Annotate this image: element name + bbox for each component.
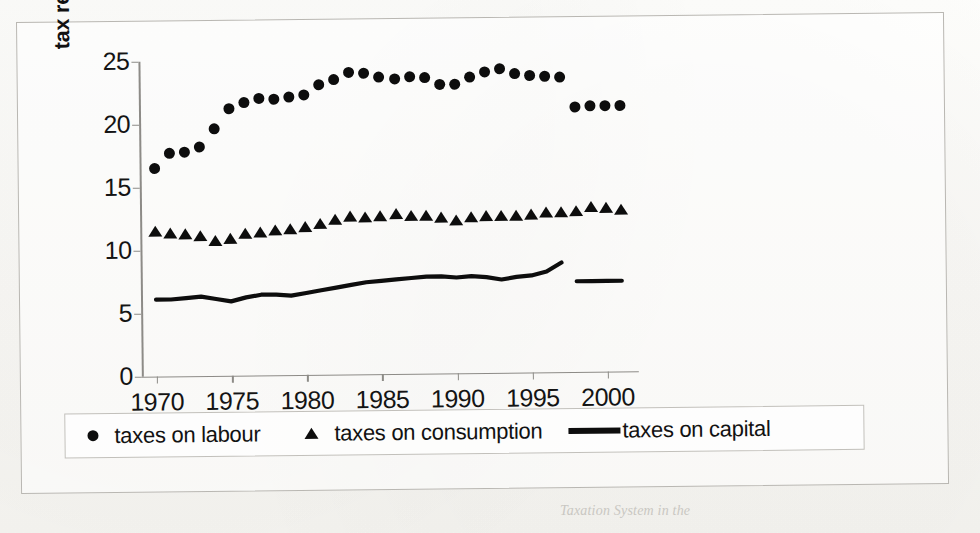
labour-data-point xyxy=(584,100,595,111)
consumption-data-point xyxy=(479,210,493,221)
consumption-data-point xyxy=(253,226,267,237)
capital-line-segment xyxy=(156,262,562,302)
labour-data-point xyxy=(614,100,625,111)
labour-data-point xyxy=(254,93,265,104)
page-caption-fragment: Taxation System in the xyxy=(560,503,690,519)
labour-data-point xyxy=(299,90,310,101)
consumption-data-point xyxy=(509,209,523,220)
labour-data-point xyxy=(539,71,550,82)
consumption-data-point xyxy=(539,207,553,218)
consumption-data-point xyxy=(313,218,327,229)
consumption-data-point xyxy=(374,210,388,221)
labour-data-point xyxy=(194,141,205,152)
labour-data-point xyxy=(149,163,160,174)
consumption-data-point xyxy=(238,228,252,239)
y-tick-label: 5 xyxy=(119,299,133,328)
consumption-data-point xyxy=(419,209,433,220)
y-axis-title: tax revenues (% GDP) xyxy=(48,0,76,80)
y-tick xyxy=(133,251,140,252)
legend-label-labour: taxes on labour xyxy=(114,421,260,449)
chart-figure: tax revenues (% GDP) 0510152025 19701975… xyxy=(16,12,947,492)
consumption-data-point xyxy=(223,233,237,244)
labour-data-point xyxy=(389,74,400,85)
labour-data-point xyxy=(599,100,610,111)
labour-data-point xyxy=(464,71,475,82)
labour-data-point xyxy=(554,72,565,83)
legend-item-capital: taxes on capital xyxy=(568,415,770,443)
labour-data-point xyxy=(224,103,235,114)
legend-label-consumption: taxes on consumption xyxy=(334,418,542,446)
labour-data-point xyxy=(509,68,520,79)
labour-data-point xyxy=(358,68,369,79)
consumption-data-point xyxy=(193,231,207,242)
labour-data-point xyxy=(269,94,280,105)
labour-data-point xyxy=(179,146,190,157)
labour-data-point xyxy=(328,74,339,85)
labour-data-point xyxy=(284,91,295,102)
legend-label-capital: taxes on capital xyxy=(622,415,770,443)
consumption-data-point xyxy=(268,225,282,236)
dot-marker-icon xyxy=(87,430,98,441)
y-tick xyxy=(134,314,141,315)
triangle-marker-icon xyxy=(304,428,318,439)
consumption-data-point xyxy=(614,203,628,214)
labour-data-point xyxy=(434,79,445,90)
y-tick-label: 25 xyxy=(102,47,129,76)
line-marker-icon xyxy=(568,427,620,434)
y-tick-label: 10 xyxy=(105,236,132,265)
plot-area: 0510152025 1970197519801985199019952000 xyxy=(138,56,637,376)
labour-data-point xyxy=(419,72,430,83)
labour-data-point xyxy=(404,71,415,82)
y-tick xyxy=(131,62,138,63)
labour-data-point xyxy=(374,71,385,82)
consumption-data-point xyxy=(404,209,418,220)
y-tick xyxy=(132,125,139,126)
y-tick-label: 15 xyxy=(104,173,131,202)
consumption-data-point xyxy=(343,210,357,221)
labour-data-point xyxy=(343,66,354,77)
legend-item-labour: taxes on labour xyxy=(87,421,260,449)
consumption-data-point xyxy=(163,227,177,238)
consumption-data-point xyxy=(569,205,583,216)
labour-data-point xyxy=(209,123,220,134)
labour-data-point xyxy=(524,70,535,81)
consumption-data-point xyxy=(584,201,598,212)
y-tick-label: 20 xyxy=(103,110,130,139)
y-tick xyxy=(133,188,140,189)
consumption-data-point xyxy=(494,210,508,221)
chart-legend: taxes on labour taxes on consumption tax… xyxy=(64,405,864,459)
consumption-data-point xyxy=(599,202,613,213)
consumption-data-point xyxy=(283,223,297,234)
consumption-data-point xyxy=(148,226,162,237)
consumption-data-point xyxy=(178,228,192,239)
consumption-data-point xyxy=(208,235,222,246)
labour-data-point xyxy=(164,148,175,159)
consumption-data-point xyxy=(359,211,373,222)
consumption-data-point xyxy=(389,208,403,219)
consumption-data-point xyxy=(464,211,478,222)
labour-data-point xyxy=(569,102,580,113)
y-tick xyxy=(135,377,142,378)
labour-data-point xyxy=(494,64,505,75)
consumption-data-point xyxy=(434,212,448,223)
labour-data-point xyxy=(449,79,460,90)
consumption-data-point xyxy=(524,208,538,219)
consumption-data-point xyxy=(328,214,342,225)
legend-item-consumption: taxes on consumption xyxy=(304,418,542,447)
consumption-data-point xyxy=(298,221,312,232)
consumption-data-point xyxy=(449,214,463,225)
labour-data-point xyxy=(239,97,250,108)
labour-data-point xyxy=(313,79,324,90)
consumption-data-point xyxy=(554,206,568,217)
labour-data-point xyxy=(479,66,490,77)
y-tick-label: 0 xyxy=(119,362,133,391)
